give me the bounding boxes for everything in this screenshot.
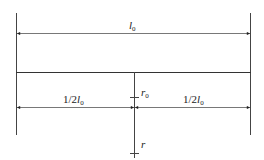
label-half-right: 1/2l0 xyxy=(183,94,204,107)
label-half-left: 1/2l0 xyxy=(63,94,84,107)
label-radius: r xyxy=(141,139,145,150)
label-inner-radius: r0 xyxy=(141,87,149,100)
label-total-length: l0 xyxy=(129,20,136,33)
